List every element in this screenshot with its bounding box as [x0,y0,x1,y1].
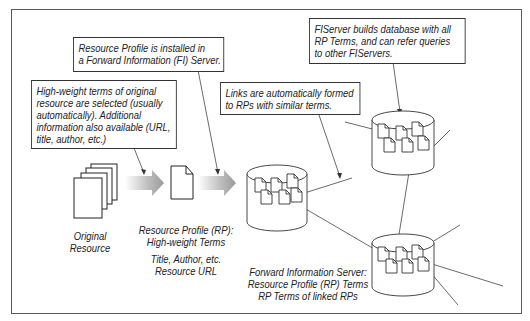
label-line: RP Terms of linked RPs [245,290,371,302]
note-high-weight: High-weight terms of original resource a… [31,80,177,149]
note-line: High-weight terms of original [36,85,171,97]
database-cylinder-icon-bottom [372,234,434,296]
gradient-arrow-icon-1 [125,170,164,196]
note-line: a Forward Information (FI) Server. [78,54,218,66]
connector-high-weight [134,148,144,173]
database-cylinder-icon-top [372,111,434,175]
note-line: information also available (URL, [36,121,171,133]
note-line: RP Terms, and can refer queries [314,35,460,47]
note-line: resource are selected (usually [36,97,171,109]
note-line: to other FIServers. [314,47,460,59]
connector-fi-install [198,70,218,173]
note-links: Links are automatically formed to RPs wi… [220,82,360,115]
label-line: Resource URL [141,265,231,277]
connector-links [318,112,340,177]
note-fi-install: Resource Profile is installed in a Forwa… [73,37,224,72]
note-line: FIServer builds database with all [314,23,460,35]
label-line: Title, Author, etc. [141,253,231,265]
label-original-resource: Original Resource [65,230,115,254]
note-line: automatically). Additional [36,109,171,121]
document-icon [171,166,193,199]
label-resource-profile: Resource Profile (RP): High-weight Terms [132,224,240,248]
label-line: Resource Profile (RP) Terms [245,278,371,290]
note-line: title, author, etc.) [36,133,171,145]
label-line: Original [65,230,115,242]
label-line: Resource [65,242,115,254]
document-stack-icon [74,164,117,218]
connector-fiserver [393,62,400,112]
label-resource-profile-extra: Title, Author, etc. Resource URL [141,253,231,277]
label-line: High-weight Terms [132,236,240,248]
database-cylinder-icon-left [247,165,307,231]
label-fi-server: Forward Information Server: Resource Pro… [245,266,371,302]
label-line: Forward Information Server: [245,266,371,278]
gradient-arrow-icon-2 [198,170,236,196]
note-line: Links are automatically formed [225,87,355,99]
note-fiserver-db: FIServer builds database with all RP Ter… [309,18,466,64]
note-line: Resource Profile is installed in [78,42,218,54]
note-line: to RPs with similar terms. [225,99,355,111]
label-line: Resource Profile (RP): [132,224,240,236]
